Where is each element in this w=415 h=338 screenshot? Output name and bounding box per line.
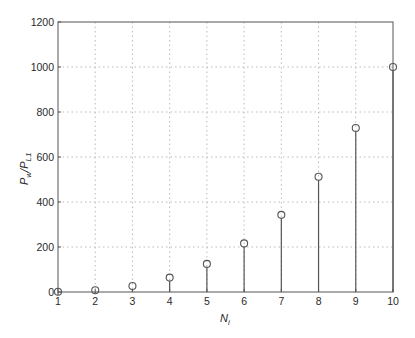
circle-marker-icon	[315, 173, 322, 180]
y-tick-label: 1200	[31, 16, 55, 28]
y-axis-label: Pw/PL1	[18, 153, 33, 185]
x-tick-label: 5	[204, 295, 210, 307]
data-point	[278, 211, 285, 292]
x-axis-label: Ni	[220, 312, 230, 327]
x-tick-label: 6	[241, 295, 247, 307]
x-tick-label: 8	[316, 295, 322, 307]
y-tick-label: 0	[48, 286, 54, 298]
y-tick-label: 200	[36, 241, 54, 253]
x-tick-label: 7	[278, 295, 284, 307]
stem-chart: 12345678910 020040060080010001200 Ni Pw/…	[0, 0, 415, 338]
x-tick-label: 10	[387, 295, 399, 307]
y-tick-label: 400	[36, 196, 54, 208]
x-tick-label: 1	[55, 295, 61, 307]
data-point	[352, 124, 359, 292]
grid-lines	[58, 22, 393, 292]
y-tick-label: 800	[36, 106, 54, 118]
data-point	[315, 173, 322, 292]
y-tick-label: 1000	[31, 61, 55, 73]
data-point	[241, 240, 248, 292]
x-tick-label: 9	[353, 295, 359, 307]
y-tick-label: 600	[36, 151, 54, 163]
data-stems	[55, 64, 397, 296]
x-tick-label: 3	[130, 295, 136, 307]
x-tick-label: 4	[167, 295, 173, 307]
x-tick-label: 2	[92, 295, 98, 307]
y-axis-ticks: 020040060080010001200	[31, 16, 61, 298]
